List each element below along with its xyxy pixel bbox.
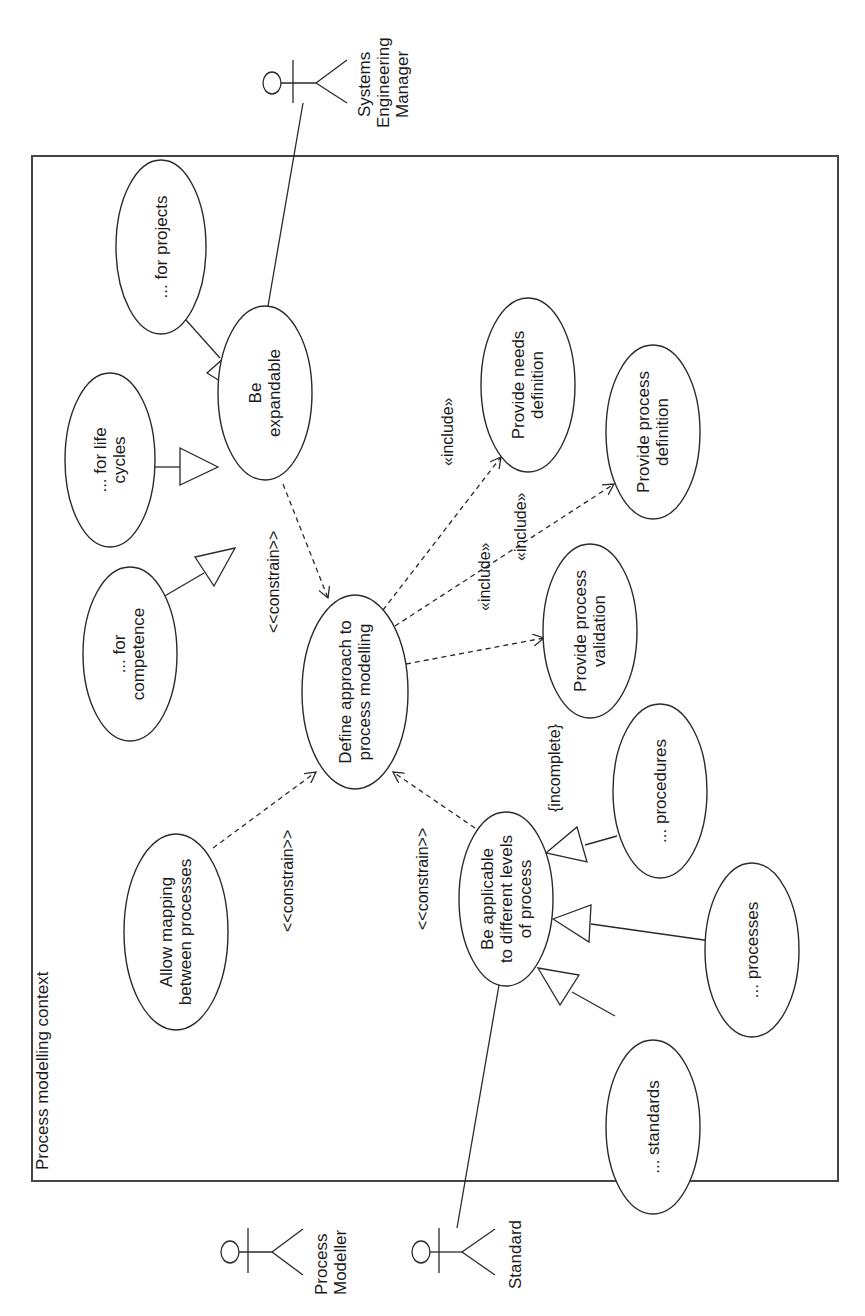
constrain-label: <<constrain>>	[265, 531, 282, 633]
use-case-label: process modelling	[355, 623, 374, 760]
use-case-for-projects[interactable]: ... for projects	[116, 160, 206, 334]
generalization-competence-expandable	[163, 548, 235, 597]
use-case-be-expandable[interactable]: Be expandable	[218, 306, 312, 480]
use-case-label: Be applicable	[478, 848, 497, 950]
include-label: «include»	[439, 397, 456, 466]
use-case-label: ... processes	[743, 902, 762, 998]
frame-title: Process modelling context	[33, 971, 52, 1170]
actor-name-line: Modeller	[331, 1229, 350, 1295]
include-define-procval	[406, 638, 544, 664]
use-case-for-competence[interactable]: ... for competence	[83, 567, 177, 741]
actor-name-line: Manager	[393, 51, 412, 118]
actor-stick-figure-icon	[412, 1228, 495, 1275]
incomplete-constraint-label: {incomplete}	[546, 723, 563, 812]
use-case-label: definition	[528, 351, 547, 419]
use-case-label: of process	[516, 860, 535, 938]
use-case-label: Provide needs	[509, 331, 528, 440]
use-case-label: Define approach to	[336, 620, 355, 764]
use-case-diagram: Process modelling context Systems Engine…	[0, 0, 865, 1316]
actor-name-line: Engineering	[374, 37, 393, 128]
constrain-label: <<constrain>>	[414, 828, 431, 930]
dependency-applicable-define	[393, 772, 475, 828]
use-case-provide-process-validation[interactable]: Provide process validation	[543, 544, 637, 718]
association-standard-applicable	[457, 985, 499, 1228]
use-case-label: Be	[246, 383, 265, 404]
dependency-expandable-define	[283, 484, 328, 598]
use-case-label: ... for	[110, 634, 129, 673]
include-label: «include»	[512, 492, 529, 561]
use-case-label: validation	[590, 595, 609, 667]
use-case-label: ... for projects	[152, 196, 171, 299]
use-case-label: between processes	[176, 859, 195, 1005]
constrain-label: <<constrain>>	[279, 830, 296, 932]
use-case-provide-needs-definition[interactable]: Provide needs definition	[481, 298, 575, 472]
use-case-provide-process-definition[interactable]: Provide process definition	[606, 345, 700, 519]
actor-name-line: Systems	[355, 52, 374, 117]
use-case-standards[interactable]: ... standards	[606, 1040, 700, 1214]
use-case-label: cycles	[110, 436, 129, 483]
generalization-standards-applicable	[538, 968, 615, 1016]
use-case-label: Provide process	[634, 371, 653, 493]
use-case-for-life-cycles[interactable]: ... for life cycles	[65, 373, 155, 547]
association-sem-expandable	[268, 103, 303, 306]
actor-stick-figure-icon	[221, 1228, 303, 1275]
actor-stick-figure-icon	[263, 60, 347, 103]
use-case-label: definition	[653, 398, 672, 466]
use-case-allow-mapping[interactable]: Allow mapping between processes	[124, 834, 228, 1030]
use-case-be-applicable[interactable]: Be applicable to different levels of pro…	[459, 812, 553, 986]
actor-process-modeller[interactable]: Process Modeller	[221, 1228, 350, 1295]
include-label: «include»	[476, 542, 493, 611]
actor-name-line: Standard	[506, 1220, 525, 1289]
use-case-label: ... for life	[91, 427, 110, 492]
use-case-define-approach[interactable]: Define approach to process modelling	[302, 595, 408, 789]
actor-name-line: Process	[312, 1234, 331, 1295]
use-case-label: Allow mapping	[157, 877, 176, 988]
use-case-label: Provide process	[571, 570, 590, 692]
use-case-processes[interactable]: ... processes	[705, 863, 799, 1037]
use-case-label: ... procedures	[651, 739, 670, 843]
generalization-procedures-applicable	[546, 827, 617, 862]
generalization-lifecycles-expandable	[155, 448, 218, 485]
actor-standard[interactable]: Standard	[412, 1220, 525, 1289]
use-case-label: to different levels	[497, 835, 516, 963]
use-case-label: expandable	[265, 349, 284, 437]
generalization-processes-applicable	[553, 905, 711, 942]
dependency-mapping-define	[213, 772, 316, 848]
actor-systems-engineering-manager[interactable]: Systems Engineering Manager	[263, 37, 412, 128]
use-case-label: competence	[129, 608, 148, 701]
use-case-label: ... standards	[644, 1080, 663, 1174]
use-case-procedures[interactable]: ... procedures	[613, 704, 707, 878]
